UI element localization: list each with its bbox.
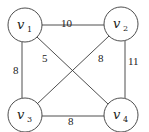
node-v3-label: v: [17, 107, 25, 122]
node-v2-circle: [104, 7, 138, 41]
weighted-graph-diagram: 10 8 5 8 11 8 v 1 v 2 v 3 v 4: [0, 0, 149, 132]
node-v1-subscript: 1: [27, 25, 32, 34]
node-v2: v 2: [104, 7, 138, 41]
node-v4-subscript: 4: [123, 115, 128, 124]
node-v1-label: v: [17, 17, 25, 32]
node-v4-label: v: [113, 107, 121, 122]
node-v4-circle: [104, 98, 138, 132]
weight-v1-v2: 10: [61, 17, 73, 29]
weight-v2-v3: 8: [98, 52, 104, 64]
node-v1: v 1: [8, 8, 42, 42]
node-v3-subscript: 3: [27, 115, 32, 124]
weight-v3-v4: 8: [68, 115, 74, 127]
node-v2-label: v: [113, 16, 121, 31]
node-v2-subscript: 2: [123, 24, 128, 33]
node-v4: v 4: [104, 98, 138, 132]
edge-v2-v3: [37, 36, 109, 104]
weight-v1-v3: 8: [13, 64, 19, 76]
node-v3-circle: [8, 98, 42, 132]
weight-v1-v4: 5: [42, 52, 48, 64]
node-v1-circle: [8, 8, 42, 42]
weight-v2-v4: 11: [128, 55, 139, 67]
node-v3: v 3: [8, 98, 42, 132]
